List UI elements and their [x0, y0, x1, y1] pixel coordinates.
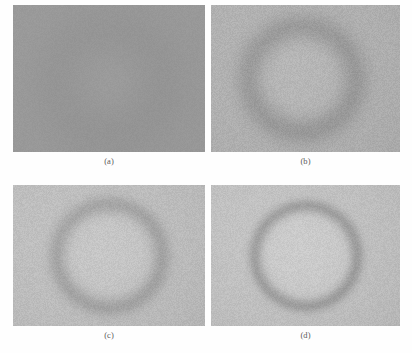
figure-panel-a: [13, 5, 205, 152]
figure-panel-b: [211, 5, 400, 152]
figure-panel-d: [211, 185, 400, 326]
figure-container: (a) (b) (c) (d): [0, 0, 412, 353]
panel-b-caption: (b): [211, 156, 400, 167]
panel-c-caption: (c): [13, 330, 205, 341]
panel-d-image: [211, 185, 400, 326]
figure-panel-c: [13, 185, 205, 326]
panel-a-caption: (a): [13, 156, 205, 167]
panel-a-image: [13, 5, 205, 152]
panel-d-caption: (d): [211, 330, 400, 341]
panel-c-image: [13, 185, 205, 326]
panel-b-image: [211, 5, 400, 152]
